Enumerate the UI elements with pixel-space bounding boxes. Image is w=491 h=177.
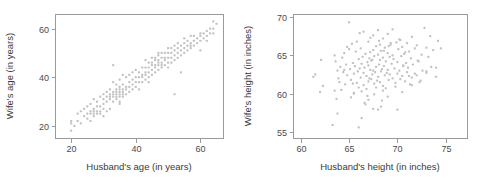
data-point bbox=[144, 66, 146, 68]
data-point bbox=[332, 124, 334, 126]
y-tick-label: 55 bbox=[277, 128, 287, 138]
data-point bbox=[99, 105, 101, 107]
data-point bbox=[335, 98, 337, 100]
data-point bbox=[157, 54, 159, 56]
data-point bbox=[115, 83, 117, 85]
data-point bbox=[312, 76, 314, 78]
chart-panel-husband-wife-height: 6065707555606570Husband's height (in inc… bbox=[242, 13, 468, 172]
data-point bbox=[398, 70, 400, 72]
data-point bbox=[119, 88, 121, 90]
data-point bbox=[96, 105, 98, 107]
data-point bbox=[396, 109, 398, 111]
data-point bbox=[378, 40, 380, 42]
data-point bbox=[375, 66, 377, 68]
data-point bbox=[355, 50, 357, 52]
data-point bbox=[99, 96, 101, 98]
data-point bbox=[115, 88, 117, 90]
data-point bbox=[183, 52, 185, 54]
data-point bbox=[167, 66, 169, 68]
data-point bbox=[125, 76, 127, 78]
data-point bbox=[154, 71, 156, 73]
data-point bbox=[367, 64, 369, 66]
data-point bbox=[382, 37, 384, 39]
data-point bbox=[437, 40, 439, 42]
data-point bbox=[358, 86, 360, 88]
data-point bbox=[177, 47, 179, 49]
data-point bbox=[435, 66, 437, 68]
data-point bbox=[112, 96, 114, 98]
data-point bbox=[199, 35, 201, 37]
data-point bbox=[186, 45, 188, 47]
data-point bbox=[89, 110, 91, 112]
data-point bbox=[380, 70, 382, 72]
data-point bbox=[157, 69, 159, 71]
data-point bbox=[206, 35, 208, 37]
data-point bbox=[70, 130, 72, 132]
data-point bbox=[367, 40, 369, 42]
x-tick-label: 60 bbox=[296, 144, 306, 154]
data-point bbox=[352, 83, 354, 85]
data-point bbox=[131, 88, 133, 90]
data-point bbox=[387, 33, 389, 35]
data-point bbox=[154, 64, 156, 66]
data-point bbox=[144, 74, 146, 76]
data-point bbox=[144, 79, 146, 81]
data-point bbox=[340, 89, 342, 91]
data-point bbox=[183, 37, 185, 39]
data-point bbox=[193, 40, 195, 42]
data-point bbox=[397, 48, 399, 50]
data-point bbox=[151, 69, 153, 71]
data-point bbox=[376, 79, 378, 81]
data-point bbox=[382, 89, 384, 91]
data-point bbox=[361, 63, 363, 65]
data-point bbox=[349, 68, 351, 70]
scatterplot-figure: 204060204060Husband's age (in years)Wife… bbox=[0, 0, 491, 177]
data-point bbox=[373, 55, 375, 57]
data-point bbox=[93, 98, 95, 100]
data-point bbox=[391, 54, 393, 56]
data-point bbox=[414, 47, 416, 49]
data-point bbox=[404, 80, 406, 82]
data-point bbox=[408, 50, 410, 52]
data-point bbox=[359, 32, 361, 34]
data-point bbox=[418, 60, 420, 62]
data-point bbox=[380, 106, 382, 108]
data-point bbox=[122, 96, 124, 98]
data-point bbox=[322, 85, 324, 87]
data-point bbox=[392, 58, 394, 60]
data-point bbox=[70, 120, 72, 122]
data-point bbox=[387, 96, 389, 98]
x-tick-label: 20 bbox=[66, 144, 76, 154]
data-point bbox=[394, 86, 396, 88]
data-point bbox=[148, 76, 150, 78]
data-point bbox=[440, 47, 442, 49]
data-point bbox=[206, 40, 208, 42]
data-point bbox=[369, 51, 371, 53]
data-point bbox=[106, 100, 108, 102]
data-point bbox=[356, 40, 358, 42]
data-point bbox=[411, 36, 413, 38]
data-point bbox=[164, 64, 166, 66]
data-point bbox=[157, 64, 159, 66]
y-axis-title: Wife's age (in years) bbox=[4, 33, 15, 119]
data-point bbox=[80, 110, 82, 112]
data-point bbox=[401, 75, 403, 77]
data-point bbox=[362, 31, 364, 33]
data-point bbox=[383, 50, 385, 52]
data-point bbox=[384, 47, 386, 49]
data-point bbox=[420, 53, 422, 55]
data-point bbox=[141, 76, 143, 78]
data-point bbox=[131, 79, 133, 81]
data-point bbox=[119, 79, 121, 81]
data-point bbox=[80, 122, 82, 124]
data-point bbox=[406, 42, 408, 44]
data-point bbox=[190, 42, 192, 44]
data-point bbox=[369, 69, 371, 71]
data-point bbox=[86, 105, 88, 107]
data-point bbox=[122, 83, 124, 85]
data-point bbox=[366, 61, 368, 63]
data-point bbox=[170, 62, 172, 64]
data-point bbox=[183, 47, 185, 49]
data-point bbox=[128, 91, 130, 93]
data-point bbox=[119, 100, 121, 102]
